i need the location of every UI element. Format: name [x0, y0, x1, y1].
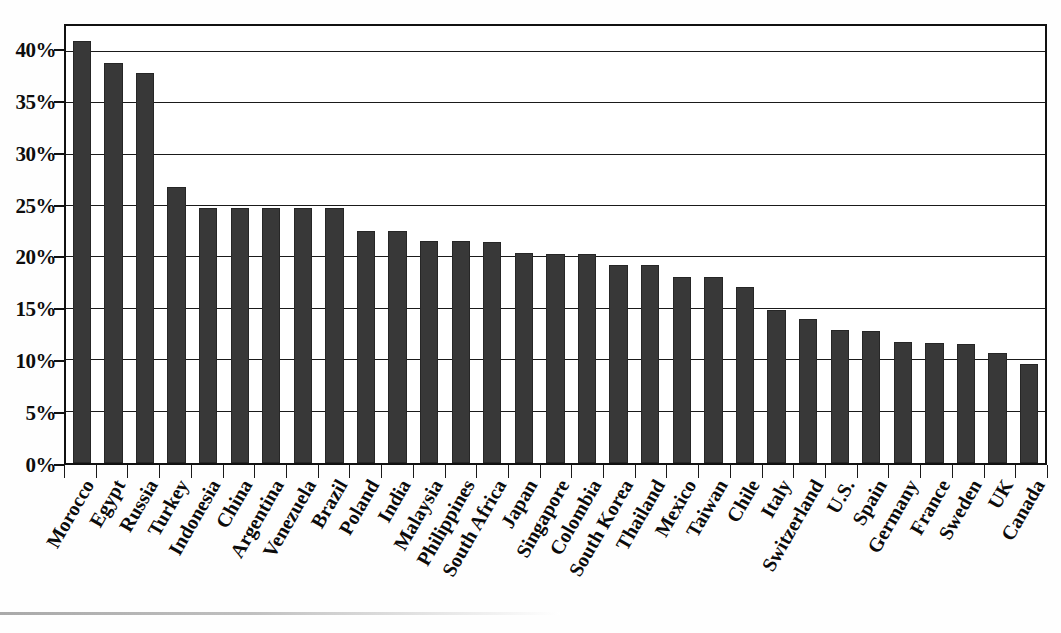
bar	[104, 63, 122, 463]
bar	[231, 208, 249, 463]
y-axis: 0%5%10%15%20%25%30%35%40%	[0, 0, 64, 489]
x-label-slot: U.S.	[825, 470, 857, 620]
bar-slot	[477, 26, 509, 463]
x-label-slot: Switzerland	[793, 470, 825, 620]
bar	[262, 208, 280, 463]
bar	[894, 342, 912, 463]
bar-slot	[634, 26, 666, 463]
y-axis-tick-label: 25%	[16, 193, 57, 218]
bar-slot	[919, 26, 951, 463]
bar	[1020, 364, 1038, 463]
y-axis-tick-label: 0%	[26, 453, 57, 478]
bar	[673, 277, 691, 463]
bar	[420, 241, 438, 463]
y-axis-tick-label: 15%	[16, 297, 57, 322]
bar-slot	[571, 26, 603, 463]
bar-slot	[698, 26, 730, 463]
bar-slot	[729, 26, 761, 463]
x-axis-label: Chile	[723, 476, 763, 525]
bar	[452, 241, 470, 463]
bar	[73, 41, 91, 463]
y-axis-tick-mark	[54, 101, 64, 103]
bar-series	[66, 26, 1045, 463]
bar	[641, 265, 659, 463]
x-label-slot: Canada	[1015, 470, 1047, 620]
y-axis-tick-mark	[54, 205, 64, 207]
bar	[988, 353, 1006, 463]
bar	[862, 331, 880, 463]
bar-slot	[540, 26, 572, 463]
bar-slot	[824, 26, 856, 463]
x-label-slot: Thailand	[635, 470, 667, 620]
bar	[925, 343, 943, 463]
bar-slot	[129, 26, 161, 463]
y-axis-tick-mark	[54, 256, 64, 258]
bar-slot	[413, 26, 445, 463]
bar	[736, 287, 754, 463]
bar	[483, 242, 501, 463]
bar-slot	[98, 26, 130, 463]
bar	[357, 231, 375, 463]
y-axis-tick-mark	[54, 412, 64, 414]
y-axis-tick-mark	[54, 49, 64, 51]
bar	[546, 254, 564, 463]
bar-slot	[792, 26, 824, 463]
y-axis-tick-mark	[54, 464, 64, 466]
bar-slot	[382, 26, 414, 463]
y-axis-tick-label: 20%	[16, 245, 57, 270]
bar-slot	[887, 26, 919, 463]
bar-slot	[761, 26, 793, 463]
y-axis-tick-label: 30%	[16, 141, 57, 166]
x-label-slot: Egypt	[96, 470, 128, 620]
bar	[799, 319, 817, 463]
bar-slot	[950, 26, 982, 463]
x-label-slot: Brazil	[318, 470, 350, 620]
chart-page: 0%5%10%15%20%25%30%35%40% MoroccoEgyptRu…	[0, 0, 1061, 633]
bar-slot	[66, 26, 98, 463]
bar	[767, 310, 785, 463]
y-axis-tick-label: 5%	[26, 401, 57, 426]
x-label-slot: Sweden	[952, 470, 984, 620]
y-axis-tick-label: 10%	[16, 349, 57, 374]
bar	[136, 73, 154, 463]
y-axis-tick-mark	[54, 153, 64, 155]
bar-slot	[161, 26, 193, 463]
bar-slot	[350, 26, 382, 463]
x-label-slot: UK	[983, 470, 1015, 620]
bar-slot	[287, 26, 319, 463]
bar-slot	[224, 26, 256, 463]
bar-slot	[855, 26, 887, 463]
bar	[704, 277, 722, 463]
x-axis-labels: MoroccoEgyptRussiaTurkeyIndonesiaChinaAr…	[64, 470, 1047, 620]
y-axis-tick-label: 40%	[16, 37, 57, 62]
x-label-slot: South Africa	[476, 470, 508, 620]
x-label-slot: Indonesia	[191, 470, 223, 620]
scan-artifact-line	[0, 612, 560, 615]
bar	[199, 208, 217, 463]
bar-slot	[1013, 26, 1045, 463]
bar	[609, 265, 627, 463]
y-axis-tick-mark	[54, 308, 64, 310]
bar-slot	[192, 26, 224, 463]
bar-slot	[603, 26, 635, 463]
bar-slot	[255, 26, 287, 463]
bar	[167, 187, 185, 463]
bar	[515, 253, 533, 463]
bar	[388, 231, 406, 463]
x-label-slot: Germany	[888, 470, 920, 620]
bar	[325, 208, 343, 463]
bar	[294, 208, 312, 463]
bar-slot	[982, 26, 1014, 463]
x-label-slot: Venezuela	[286, 470, 318, 620]
bar	[831, 330, 849, 463]
x-label-slot: Poland	[349, 470, 381, 620]
bar-slot	[666, 26, 698, 463]
x-label-slot: Mexico	[666, 470, 698, 620]
plot-area	[64, 24, 1047, 465]
bar-slot	[445, 26, 477, 463]
x-axis-tick-mark	[1047, 465, 1048, 478]
x-label-slot: Morocco	[64, 470, 96, 620]
bar-slot	[508, 26, 540, 463]
x-label-slot: Chile	[730, 470, 762, 620]
bar-slot	[319, 26, 351, 463]
